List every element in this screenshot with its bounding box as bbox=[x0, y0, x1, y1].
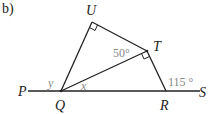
label-S: S bbox=[199, 85, 206, 100]
part-label: b) bbox=[2, 1, 14, 17]
label-U: U bbox=[86, 3, 97, 18]
vertex-T bbox=[146, 50, 149, 53]
label-P: P bbox=[17, 84, 27, 99]
angle-label-x: x bbox=[80, 79, 87, 93]
label-T: T bbox=[153, 39, 162, 54]
angle-label-50: 50° bbox=[113, 46, 130, 60]
segment-QU bbox=[61, 22, 92, 91]
label-Q: Q bbox=[55, 98, 65, 113]
angle-label-y: y bbox=[47, 76, 54, 90]
angle-label-115: 115 ° bbox=[168, 75, 194, 89]
label-R: R bbox=[159, 98, 169, 113]
segment-TR bbox=[147, 51, 166, 91]
geometry-diagram: b) U T P Q R S 50° 115 ° y x bbox=[0, 0, 214, 114]
segment-QT bbox=[61, 51, 147, 91]
vertex-Q bbox=[60, 90, 63, 93]
